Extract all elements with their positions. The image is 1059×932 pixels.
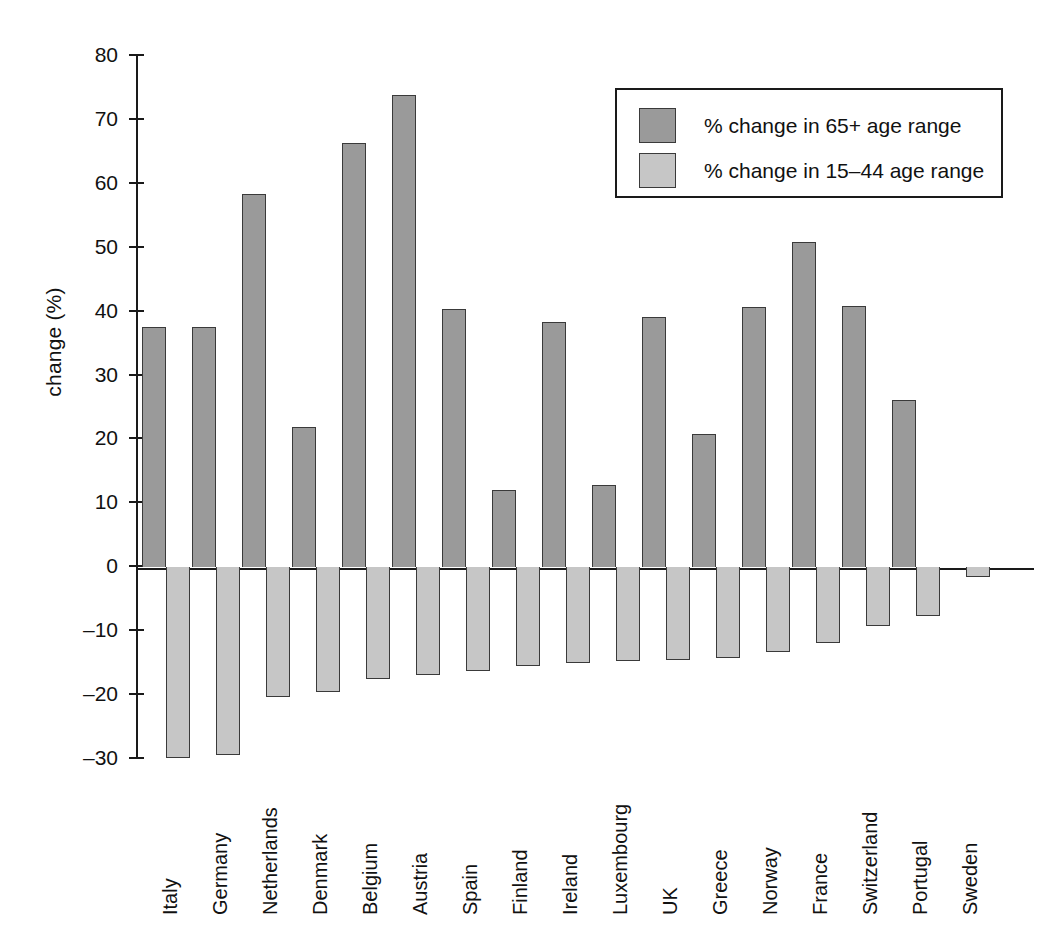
y-axis-tick-label: 70 — [58, 108, 118, 129]
bar-65plus — [742, 307, 766, 567]
y-axis-tick-label-wrap: 20 — [52, 427, 118, 448]
bar-65plus — [242, 194, 266, 567]
bar-15-44 — [166, 567, 190, 757]
x-axis-label: Portugal — [910, 841, 930, 916]
bar-15-44 — [366, 567, 390, 679]
y-axis-tick-label-wrap: 40 — [52, 300, 118, 321]
bar-chart: change (%) 80706050403020100–10–20–30 It… — [0, 0, 1059, 932]
y-axis-tick-label: 30 — [58, 364, 118, 385]
y-axis-tick-label-wrap: 60 — [52, 172, 118, 193]
bar-65plus — [892, 400, 916, 567]
y-axis-tick-label-wrap: 80 — [52, 44, 118, 65]
x-axis-label: Denmark — [310, 834, 330, 915]
y-axis-tick-label-wrap: –10 — [52, 619, 118, 640]
bar-15-44 — [916, 567, 940, 616]
y-axis-tick-label-wrap: 0 — [52, 555, 118, 576]
legend-item: % change in 65+ age range — [639, 106, 961, 144]
bar-15-44 — [316, 567, 340, 692]
x-axis-label: Greece — [710, 849, 730, 915]
bar-65plus — [542, 322, 566, 568]
bar-15-44 — [416, 567, 440, 675]
x-axis-label: Norway — [760, 847, 780, 915]
legend-swatch — [639, 153, 676, 188]
bar-65plus — [792, 242, 816, 567]
x-axis-label: Switzerland — [860, 812, 880, 915]
x-axis-label: Ireland — [560, 854, 580, 915]
bar-15-44 — [516, 567, 540, 666]
bar-15-44 — [766, 567, 790, 652]
bar-65plus — [142, 327, 166, 568]
bar-15-44 — [566, 567, 590, 663]
y-axis-tick-label: 50 — [58, 236, 118, 257]
y-axis-tick-label: 40 — [58, 300, 118, 321]
x-axis-label: Luxembourg — [610, 804, 630, 915]
x-axis-label: Austria — [410, 853, 430, 915]
legend-swatch — [639, 108, 676, 143]
bar-65plus — [392, 95, 416, 567]
x-axis-label: Netherlands — [260, 807, 280, 915]
x-axis-label: Spain — [460, 864, 480, 915]
bar-15-44 — [266, 567, 290, 697]
bar-65plus — [292, 427, 316, 567]
y-axis-tick-label: 10 — [58, 491, 118, 512]
legend-label: % change in 15–44 age range — [704, 160, 984, 181]
y-axis-title: change (%) — [42, 232, 66, 452]
bar-65plus — [442, 309, 466, 567]
bar-15-44 — [466, 567, 490, 671]
bar-15-44 — [716, 567, 740, 658]
bar-65plus — [342, 143, 366, 567]
bar-15-44 — [666, 567, 690, 660]
x-axis-label: Finland — [510, 849, 530, 915]
y-axis-tick-label-wrap: 70 — [52, 108, 118, 129]
bar-15-44 — [816, 567, 840, 642]
bar-65plus — [642, 317, 666, 567]
y-axis-tick-label: –10 — [58, 619, 118, 640]
bar-65plus — [192, 327, 216, 568]
bar-15-44 — [616, 567, 640, 661]
bar-15-44 — [966, 567, 990, 577]
y-axis-tick-label-wrap: 30 — [52, 364, 118, 385]
y-axis-tick-label: 60 — [58, 172, 118, 193]
y-axis-tick-label-wrap: 50 — [52, 236, 118, 257]
legend-item: % change in 15–44 age range — [639, 151, 984, 189]
y-axis-tick-label: 80 — [58, 44, 118, 65]
x-axis-label: Sweden — [960, 843, 980, 915]
x-axis-label: Belgium — [360, 843, 380, 915]
x-axis-label: Germany — [210, 833, 230, 915]
legend-label: % change in 65+ age range — [704, 115, 961, 136]
y-axis-tick-label: –30 — [58, 747, 118, 768]
y-axis-tick-label-wrap: –30 — [52, 747, 118, 768]
y-axis-tick-label-wrap: 10 — [52, 491, 118, 512]
y-axis-tick-label: 20 — [58, 427, 118, 448]
bar-15-44 — [216, 567, 240, 754]
bar-65plus — [692, 434, 716, 567]
bar-65plus — [592, 485, 616, 567]
x-axis-label: Italy — [160, 878, 180, 915]
x-axis-label: France — [810, 853, 830, 915]
y-axis-tick-label: 0 — [58, 555, 118, 576]
chart-legend: % change in 65+ age range% change in 15–… — [615, 88, 1003, 198]
bar-65plus — [842, 306, 866, 567]
bar-65plus — [492, 490, 516, 568]
y-axis-tick-label: –20 — [58, 683, 118, 704]
y-axis-tick-label-wrap: –20 — [52, 683, 118, 704]
x-axis-label: UK — [660, 887, 680, 915]
bar-15-44 — [866, 567, 890, 626]
